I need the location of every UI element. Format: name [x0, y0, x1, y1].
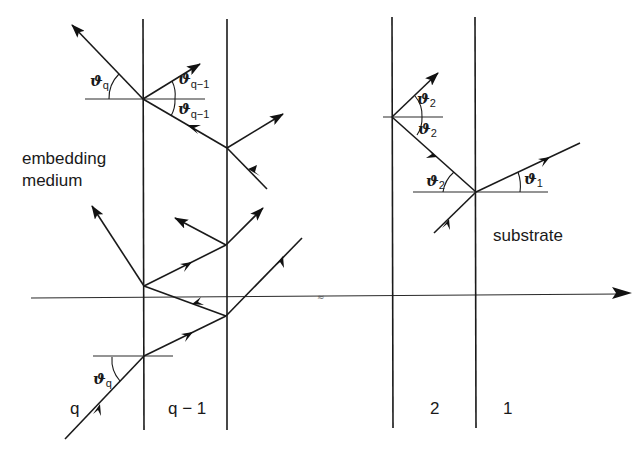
- angle-arc-theta-1: [518, 172, 520, 192]
- ray-arrow-layer-2: [426, 149, 437, 158]
- layer-label-1: 1: [503, 399, 512, 418]
- angle-arc-theta-q-1-lower: [171, 99, 175, 116]
- ray-refracted-q-1: [144, 316, 226, 356]
- theta-q-1-label-lower: ϑq−1: [178, 100, 209, 120]
- layer-label-q: q: [70, 399, 79, 418]
- ray-in-lower-right: [227, 148, 267, 189]
- angle-arc-theta-q-bottom: [112, 357, 120, 381]
- ray-back-lower: [144, 286, 226, 316]
- interface-2: [392, 17, 393, 428]
- ray-arrow-out-right: [275, 256, 284, 268]
- ray-incident-substrate: [434, 192, 476, 233]
- theta-q-label-top: ϑq: [90, 72, 109, 91]
- layer-label-2: 2: [430, 399, 439, 418]
- ray-arrow-back-lower: [192, 297, 204, 305]
- embedding-medium-label-line1: embedding: [22, 149, 106, 168]
- angle-arc-theta-q-1-upper: [172, 81, 175, 99]
- theta-2-label-middle: ϑ2: [418, 120, 437, 139]
- ray-out-right-lower: [226, 238, 302, 316]
- ray-reflect-back-middle: [175, 218, 226, 245]
- theta-q-1-label-upper: ϑq−1: [178, 70, 209, 90]
- embedding-medium-label-line2: medium: [22, 171, 82, 190]
- ray-arrow-mid: [187, 125, 201, 134]
- theta-q-label-bottom: ϑq: [93, 370, 112, 389]
- theta-1-label: ϑ1: [524, 170, 543, 189]
- multilayer-ray-diagram: ≈ ϑq ϑq−1 ϑq−1 ϑq ϑ: [0, 0, 642, 456]
- interface-1: [475, 17, 476, 428]
- layer-label-q-minus-1: q − 1: [168, 399, 206, 418]
- ray-out-q-middle: [92, 206, 144, 286]
- theta-2-label-upper: ϑ2: [417, 90, 436, 109]
- optical-axis: [31, 294, 620, 298]
- axis-arrow-head: [612, 287, 632, 299]
- ray-incident-q: [65, 356, 144, 439]
- theta-2-label-lower: ϑ2: [426, 172, 445, 191]
- ray-out-layer-3: [392, 73, 438, 117]
- ray-transmit-middle: [226, 208, 263, 245]
- interface-q: [143, 19, 144, 430]
- ray-reflect-right: [227, 114, 283, 148]
- angle-arc-theta-q-top: [109, 74, 119, 99]
- axis-break-mark: ≈: [317, 292, 325, 302]
- substrate-label: substrate: [493, 226, 563, 245]
